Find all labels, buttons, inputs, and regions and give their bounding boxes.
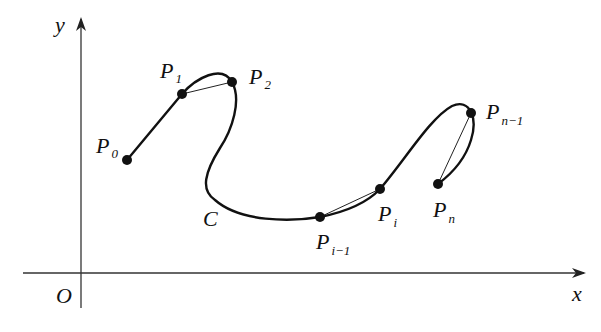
y-axis-label: y xyxy=(53,12,65,37)
point-pi-1 xyxy=(315,212,325,222)
label-pi-1: Pi−1 xyxy=(315,229,350,258)
label-pn-1: Pn−1 xyxy=(485,99,523,128)
curve-diagram: y x O C P0 P1 P2 Pi−1 Pi Pn−1 Pn xyxy=(0,0,601,332)
point-pi xyxy=(375,184,385,194)
origin-label: O xyxy=(56,283,72,308)
curve-label: C xyxy=(203,206,218,231)
chord-pn-1-pn xyxy=(438,113,471,184)
x-axis-label: x xyxy=(571,281,582,306)
label-p2: P2 xyxy=(248,64,271,92)
point-pn xyxy=(433,179,443,189)
label-p1: P1 xyxy=(159,58,182,86)
point-pn-1 xyxy=(466,108,476,118)
label-pi: Pi xyxy=(377,201,397,230)
point-p0 xyxy=(122,155,132,165)
chord-pi-1-pi xyxy=(320,189,380,217)
label-p0: P0 xyxy=(95,133,118,161)
point-p2 xyxy=(227,77,237,87)
label-pn: Pn xyxy=(432,197,455,226)
point-p1 xyxy=(177,89,187,99)
